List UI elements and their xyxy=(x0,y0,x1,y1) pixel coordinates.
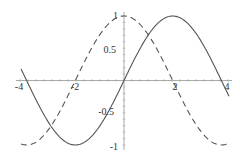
x-tick-label: 4 xyxy=(225,81,230,92)
x-axis-tick-labels: -4-224 xyxy=(15,81,230,92)
y-tick-label: 0.5 xyxy=(104,44,117,55)
sin-cos-plot: -4-224 10.5-0.5-1 xyxy=(0,0,240,156)
y-tick-label: -1 xyxy=(110,141,118,152)
x-tick-label: -4 xyxy=(15,81,23,92)
